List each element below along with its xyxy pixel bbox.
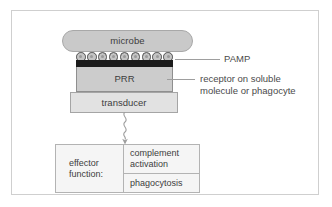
effector-title-line-1: effector	[60, 158, 123, 169]
figure-frame: microbe PRR transducer	[11, 10, 319, 195]
pamp-leader-line	[175, 59, 220, 60]
prr-membrane-band	[76, 60, 173, 67]
diagram-figure: microbe PRR transducer	[0, 0, 332, 207]
pamp-annotation-label: PAMP	[224, 53, 250, 65]
outcome-1-line-1: phagocytosis	[130, 178, 199, 189]
effector-outcomes: complement activation phagocytosis	[124, 145, 199, 192]
receptor-leader-line	[167, 79, 195, 80]
outcome-0-line-1: complement	[130, 148, 199, 159]
wavy-signal-arrow-icon	[116, 112, 134, 145]
receptor-annotation-label: receptor on soluble molecule or phagocyt…	[200, 73, 296, 97]
receptor-annotation-line-2: molecule or phagocyte	[200, 85, 296, 97]
prr-label: PRR	[114, 74, 134, 84]
receptor-annotation-line-1: receptor on soluble	[200, 73, 296, 85]
transducer-label: transducer	[102, 98, 147, 108]
transducer-block: transducer	[70, 92, 178, 113]
effector-function-table: effector function: complement activation…	[55, 144, 200, 193]
effector-outcome-phagocytosis: phagocytosis	[124, 174, 199, 192]
outcome-0-line-2: activation	[130, 159, 199, 170]
microbe-label: microbe	[110, 36, 145, 46]
effector-outcome-complement-activation: complement activation	[124, 145, 199, 174]
prr-block: PRR	[76, 67, 173, 92]
effector-title-line-2: function:	[60, 169, 123, 180]
microbe-shape: microbe	[62, 30, 193, 52]
effector-function-title-cell: effector function:	[56, 145, 124, 192]
